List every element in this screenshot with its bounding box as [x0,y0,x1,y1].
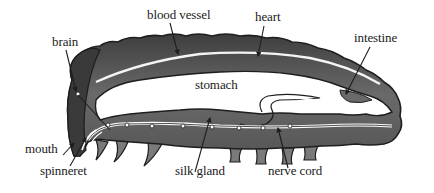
label-stomach: stomach [195,78,238,91]
label-spinneret: spinneret [40,164,87,177]
silkworm-anatomy-diagram: blood vessel heart brain intestine stoma… [0,0,434,193]
label-mouth: mouth [25,142,58,155]
label-intestine: intestine [354,31,397,44]
label-brain: brain [52,35,78,48]
label-nerve-cord: nerve cord [268,164,322,177]
label-silk-gland: silk gland [175,164,225,177]
label-blood-vessel: blood vessel [147,8,210,21]
label-heart: heart [255,10,280,23]
